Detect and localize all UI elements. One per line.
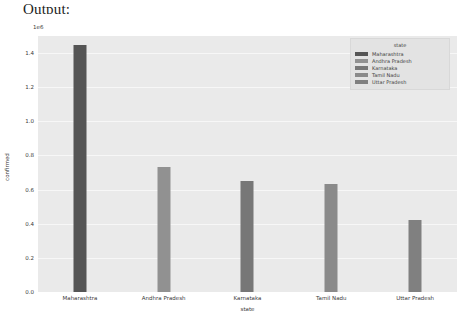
legend-label: Karnataka bbox=[372, 65, 397, 71]
legend-title: state bbox=[355, 42, 445, 48]
y-axis-tick-label: 0.4 bbox=[2, 221, 34, 227]
bar[interactable] bbox=[241, 181, 254, 292]
chart-legend: state MaharashtraAndhra PradeshKarnataka… bbox=[350, 38, 450, 90]
y-axis-tick-label: 1.2 bbox=[2, 84, 34, 90]
x-axis-title: state bbox=[38, 306, 457, 312]
legend-swatch bbox=[355, 80, 368, 84]
legend-swatch bbox=[355, 52, 368, 56]
bar[interactable] bbox=[157, 167, 170, 292]
legend-entries: MaharashtraAndhra PradeshKarnatakaTamil … bbox=[355, 50, 445, 85]
legend-swatch bbox=[355, 66, 368, 70]
legend-swatch bbox=[355, 59, 368, 63]
bar[interactable] bbox=[325, 184, 338, 292]
legend-label: Tamil Nadu bbox=[372, 72, 400, 78]
bar-slot bbox=[122, 36, 206, 292]
legend-swatch bbox=[355, 73, 368, 77]
chart-figure: 1e6 0.00.20.40.60.81.01.21.4 confirmed M… bbox=[0, 14, 463, 322]
y-axis-tick-label: 1.0 bbox=[2, 118, 34, 124]
legend-label: Uttar Pradesh bbox=[372, 79, 406, 85]
legend-label: Andhra Pradesh bbox=[372, 58, 412, 64]
bar[interactable] bbox=[73, 45, 86, 292]
y-axis-tick-label: 0.2 bbox=[2, 255, 34, 261]
y-axis-tick-label: 1.4 bbox=[2, 50, 34, 56]
legend-label: Maharashtra bbox=[372, 51, 404, 57]
bar[interactable] bbox=[409, 220, 422, 292]
bar-slot bbox=[38, 36, 122, 292]
legend-entry: Maharashtra bbox=[355, 50, 445, 57]
legend-entry: Uttar Pradesh bbox=[355, 78, 445, 85]
legend-entry: Karnataka bbox=[355, 64, 445, 71]
bar-slot bbox=[206, 36, 290, 292]
y-axis-tick-label: 0.0 bbox=[2, 289, 34, 295]
legend-entry: Tamil Nadu bbox=[355, 71, 445, 78]
legend-entry: Andhra Pradesh bbox=[355, 57, 445, 64]
y-axis-exponent-label: 1e6 bbox=[33, 24, 43, 30]
y-axis-title: confirmed bbox=[4, 137, 10, 197]
